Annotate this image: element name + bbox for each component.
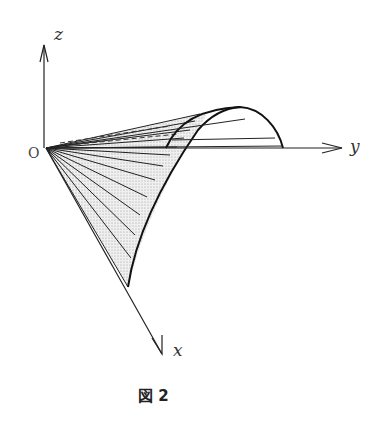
z-axis: [40, 45, 48, 148]
x-axis-label: x: [173, 340, 183, 360]
y-axis-label: y: [350, 136, 360, 156]
origin-label: O: [28, 145, 39, 161]
figure-diagram: [0, 0, 375, 429]
z-axis-label: z: [54, 24, 63, 44]
figure-caption: 図 2: [138, 384, 169, 405]
